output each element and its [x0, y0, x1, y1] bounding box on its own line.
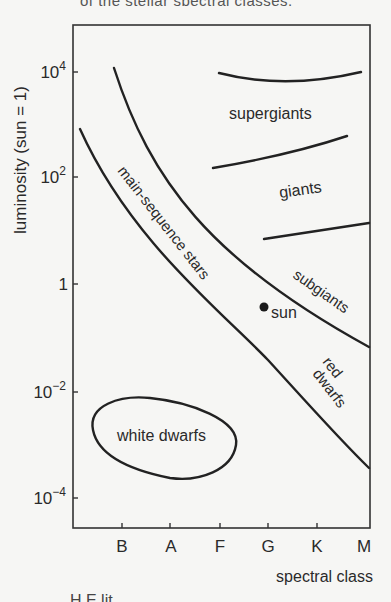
y-tick-10e-4: 10−4 [33, 485, 66, 508]
y-tick-10e-2: 10−2 [33, 379, 66, 402]
subgiants-label: subgiants [290, 266, 352, 317]
x-tick-K: K [311, 537, 323, 556]
supergiants-label: supergiants [229, 105, 312, 122]
x-axis-tick-labels: B A F G K M [116, 537, 371, 556]
y-tick-10e4: 104 [40, 59, 66, 82]
x-tick-M: M [357, 537, 371, 556]
x-tick-A: A [165, 537, 177, 556]
sun-point [260, 303, 269, 312]
page-footer-fragment: H E lit [70, 592, 390, 602]
giants-label: giants [278, 178, 323, 201]
white-dwarfs-label: white dwarfs [116, 427, 206, 444]
x-tick-B: B [116, 537, 127, 556]
x-axis-title: spectral class [276, 568, 373, 585]
giants-lower-curve [264, 223, 369, 239]
x-tick-G: G [261, 537, 274, 556]
sun-label: sun [271, 304, 297, 321]
y-axis-title: luminosity (sun = 1) [11, 86, 30, 234]
supergiants-lower-curve [213, 136, 347, 168]
x-tick-F: F [215, 537, 225, 556]
y-axis-tick-labels: 104 102 1 10−2 10−4 [33, 59, 68, 508]
supergiants-upper-curve [219, 72, 361, 81]
plot-frame [73, 25, 370, 528]
y-tick-10e2: 102 [40, 164, 66, 187]
y-tick-1: 1 [59, 275, 68, 294]
